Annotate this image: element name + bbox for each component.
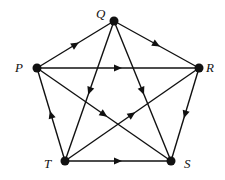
node-t: [61, 157, 70, 166]
edge-q-t: [65, 21, 114, 161]
directed-graph: QPRTS: [0, 0, 225, 180]
edge-t-s: [65, 157, 171, 164]
arrowhead-icon: [114, 157, 122, 164]
edge-q-s: [114, 21, 171, 161]
edge-p-r: [37, 64, 199, 71]
arrowhead-icon: [99, 109, 108, 117]
node-label-s: S: [184, 156, 191, 171]
edge-t-p: [37, 68, 65, 161]
node-label-r: R: [205, 60, 214, 75]
nodes-group: [33, 17, 204, 166]
arrowhead-icon: [127, 112, 136, 120]
arrowhead-icon: [114, 64, 122, 71]
arrowhead-icon: [70, 42, 79, 49]
node-q: [110, 17, 119, 26]
edge-q-r: [114, 21, 199, 68]
node-p: [33, 64, 42, 73]
edge-t-r: [65, 68, 199, 161]
node-label-p: P: [14, 60, 23, 75]
arrowhead-icon: [87, 86, 94, 95]
arrowhead-icon: [183, 110, 190, 119]
edge-p-s: [37, 68, 171, 161]
edge-r-s: [171, 68, 199, 161]
node-label-q: Q: [96, 6, 106, 21]
edges-group: [37, 21, 199, 165]
node-r: [195, 64, 204, 73]
labels-group: QPRTS: [14, 6, 214, 171]
arrowhead-icon: [49, 111, 56, 120]
node-s: [167, 157, 176, 166]
node-label-t: T: [44, 156, 52, 171]
edge-p-q: [37, 21, 114, 68]
